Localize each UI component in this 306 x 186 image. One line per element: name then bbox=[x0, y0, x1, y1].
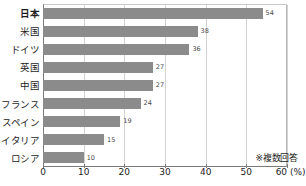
category-axis-labels: 日本米国ドイツ英国中国フランススペインイタリアロシア bbox=[0, 4, 40, 167]
x-tick-label: 20 bbox=[119, 168, 130, 177]
bar-row: 27 bbox=[43, 76, 287, 94]
category-label: 中国 bbox=[0, 76, 40, 94]
bar-row: 15 bbox=[43, 131, 287, 149]
x-tick-label: 10 bbox=[78, 168, 89, 177]
category-label: ドイツ bbox=[0, 40, 40, 58]
bar bbox=[43, 152, 84, 163]
bar bbox=[43, 44, 189, 55]
bar-value-label: 10 bbox=[87, 155, 95, 162]
chart-annotation: ※複数回答 bbox=[255, 151, 298, 164]
x-tick-label: 50 bbox=[241, 168, 252, 177]
bar-value-label: 27 bbox=[156, 82, 164, 89]
x-tick-label: 0 bbox=[40, 168, 46, 177]
x-tick-label: 30 bbox=[159, 168, 170, 177]
x-tick-label: 60 (%) bbox=[276, 168, 306, 177]
bar bbox=[43, 116, 120, 127]
bar-series: 543836272724191510 bbox=[43, 4, 287, 167]
bar-row: 19 bbox=[43, 113, 287, 131]
bar bbox=[43, 80, 153, 91]
bar bbox=[43, 134, 104, 145]
category-label: 英国 bbox=[0, 58, 40, 76]
bar-value-label: 54 bbox=[266, 10, 274, 17]
bar-value-label: 38 bbox=[201, 28, 209, 35]
category-label: フランス bbox=[0, 95, 40, 113]
bar-value-label: 19 bbox=[123, 118, 131, 125]
bar-chart: 日本米国ドイツ英国中国フランススペインイタリアロシア 5438362727241… bbox=[0, 0, 306, 186]
value-axis: 0102030405060 (%) bbox=[43, 168, 287, 182]
bar-row: 24 bbox=[43, 95, 287, 113]
category-label: 米国 bbox=[0, 22, 40, 40]
category-label: スペイン bbox=[0, 113, 40, 131]
bar-row: 38 bbox=[43, 22, 287, 40]
bar-value-label: 24 bbox=[144, 100, 152, 107]
bar-row: 54 bbox=[43, 4, 287, 22]
bar-value-label: 36 bbox=[192, 46, 200, 53]
bar bbox=[43, 26, 198, 37]
bar bbox=[43, 62, 153, 73]
category-label: ロシア bbox=[0, 149, 40, 167]
bar-row: 36 bbox=[43, 40, 287, 58]
bar-row: 27 bbox=[43, 58, 287, 76]
bar bbox=[43, 98, 141, 109]
category-label: 日本 bbox=[0, 4, 40, 22]
x-tick-label: 40 bbox=[200, 168, 211, 177]
bar-value-label: 27 bbox=[156, 64, 164, 71]
bar-value-label: 15 bbox=[107, 137, 115, 144]
category-label: イタリア bbox=[0, 131, 40, 149]
bar bbox=[43, 8, 263, 19]
gridline-60 bbox=[287, 5, 288, 166]
